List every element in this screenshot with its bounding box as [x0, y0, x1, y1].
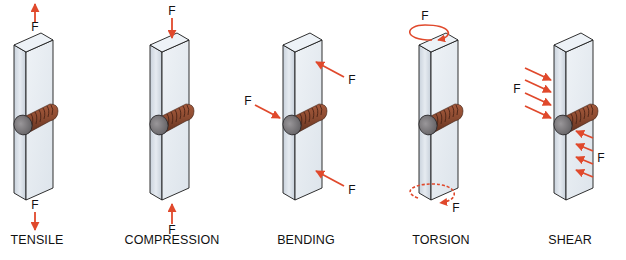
caption-shear: SHEAR	[548, 233, 592, 247]
caption-tensile: TENSILE	[11, 233, 64, 247]
force-label: F	[168, 4, 175, 18]
shear-left-arrows-icon	[525, 68, 551, 118]
force-label: F	[31, 20, 38, 34]
force-label: F	[513, 82, 520, 96]
panel-compression	[147, 18, 194, 224]
panel-torsion	[410, 25, 463, 203]
force-label: F	[421, 9, 428, 23]
panel-tensile	[11, 4, 58, 230]
force-label: F	[348, 73, 355, 87]
caption-compression: COMPRESSION	[125, 233, 220, 247]
force-label: F	[348, 183, 355, 197]
panel-shear	[525, 33, 598, 200]
bending-arrow-left-icon	[255, 105, 280, 118]
caption-torsion: TORSION	[412, 233, 469, 247]
force-label: F	[31, 198, 38, 212]
panel-bending	[255, 33, 344, 200]
stress-types-diagram	[0, 0, 626, 260]
force-label: F	[452, 201, 459, 215]
force-label: F	[597, 151, 604, 165]
force-label: F	[244, 94, 251, 108]
caption-bending: BENDING	[277, 233, 335, 247]
